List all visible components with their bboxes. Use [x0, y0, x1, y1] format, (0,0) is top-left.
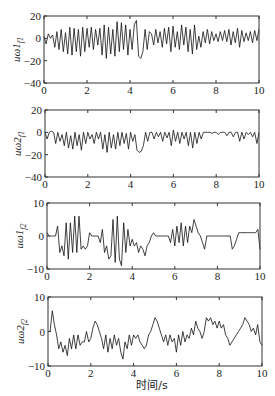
x-tick-label: 10	[257, 367, 269, 379]
y-tick-label: −20	[25, 149, 43, 161]
x-tick-label: 0	[41, 84, 47, 96]
y-tick-label: −10	[28, 360, 46, 372]
x-tick-label: 0	[42, 178, 48, 190]
y-axis-label: uω1f1	[10, 37, 25, 62]
x-tick-label: 6	[171, 178, 177, 190]
signal-line	[47, 216, 260, 266]
x-tick-label: 10	[254, 84, 266, 96]
panel-uw2-f1: 0246810200−20−40uω2f1	[11, 104, 265, 190]
panel-uw1-f2: 0246810100−10uω1f2	[13, 197, 266, 282]
x-tick-label: 8	[216, 367, 222, 379]
y-tick-label: −20	[24, 55, 42, 67]
y-tick-label: 0	[37, 126, 43, 138]
y-tick-label: −40	[24, 77, 42, 89]
x-tick-label: 8	[215, 270, 221, 282]
y-tick-label: 10	[34, 291, 46, 303]
y-tick-label: 0	[39, 230, 45, 242]
x-tick-label: 2	[85, 178, 91, 190]
x-tick-label: 4	[131, 367, 137, 379]
y-tick-label: 0	[36, 32, 42, 44]
x-tick-label: 4	[129, 270, 135, 282]
x-axis-label: 时间/s	[136, 379, 168, 392]
x-tick-label: 4	[127, 84, 133, 96]
x-tick-label: 8	[213, 178, 219, 190]
panel-uw1-f1: 0246810200−20−40uω1f1	[10, 10, 265, 96]
x-tick-label: 6	[172, 270, 178, 282]
y-tick-label: 20	[31, 104, 43, 116]
x-tick-label: 8	[213, 84, 219, 96]
figure: 0246810200−20−40uω1f10246810200−20−40uω2…	[0, 0, 275, 396]
x-tick-label: 6	[174, 367, 180, 379]
y-axis-label: uω2f1	[11, 131, 26, 156]
panel-uw2-f2: 0246810100−10uω2f2	[14, 291, 268, 379]
x-tick-label: 0	[44, 270, 50, 282]
y-tick-label: 20	[30, 10, 42, 22]
x-tick-label: 2	[87, 270, 93, 282]
x-tick-label: 2	[88, 367, 94, 379]
x-tick-label: 10	[255, 270, 267, 282]
signal-line	[44, 21, 259, 59]
y-axis-label: uω2f2	[14, 319, 29, 344]
signal-line	[48, 311, 262, 359]
y-tick-label: 0	[40, 326, 46, 338]
x-tick-label: 0	[45, 367, 51, 379]
signal-line	[45, 130, 259, 152]
x-tick-label: 4	[128, 178, 134, 190]
x-tick-label: 10	[254, 178, 266, 190]
x-tick-label: 2	[84, 84, 90, 96]
y-tick-label: 10	[33, 197, 45, 209]
y-tick-label: −10	[27, 263, 45, 275]
x-tick-label: 6	[170, 84, 176, 96]
y-axis-label: uω1f2	[13, 223, 28, 248]
y-tick-label: −40	[25, 171, 43, 183]
axes-frame	[48, 297, 262, 366]
